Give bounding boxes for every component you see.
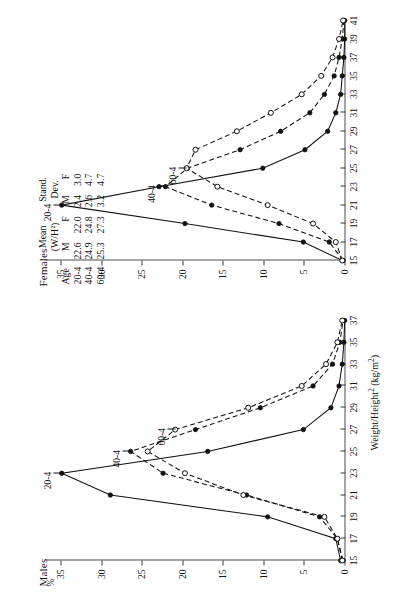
data-point-marker xyxy=(268,110,273,115)
curve-label-stem xyxy=(167,428,175,429)
data-point-marker xyxy=(182,221,186,225)
x-tick-label: 33 xyxy=(348,359,358,369)
data-point-marker xyxy=(333,239,338,244)
stats-cell-sd-f: 3.0 xyxy=(71,164,83,185)
stats-cell-mean-f: 24.8 xyxy=(82,207,94,233)
data-point-marker xyxy=(307,110,311,114)
x-tick-label: 41 xyxy=(348,15,358,25)
y-tick-label: 5 xyxy=(298,269,308,274)
y-tick-label: 25 xyxy=(136,269,146,279)
figure-plate: Males 05101520253035 1517192123252729313… xyxy=(0,0,409,614)
data-point-marker xyxy=(322,92,326,96)
x-tick-label: 19 xyxy=(348,218,358,228)
stats-group-sd: Stand. Dev. xyxy=(36,164,59,207)
data-point-marker xyxy=(328,405,332,409)
y-tick-label: 35 xyxy=(55,569,65,579)
data-point-marker xyxy=(336,383,340,387)
data-point-marker xyxy=(321,514,326,519)
data-point-marker xyxy=(265,514,269,518)
curve-label-60-4: 60-4 xyxy=(156,428,166,445)
data-point-marker xyxy=(334,339,339,344)
stats-group-sd-line2: Dev. xyxy=(48,171,60,207)
data-point-marker xyxy=(310,221,315,226)
data-point-marker xyxy=(338,92,342,96)
x-tick-label: 29 xyxy=(348,126,358,136)
stats-table-column-header-row: Age M F M F xyxy=(59,164,71,284)
y-tick-label: 15 xyxy=(217,569,227,579)
stats-table-body: 20-422.622.02.43.040-424.924.82.64.760-4… xyxy=(71,164,106,284)
plot-area-males: 05101520253035 151719212325272931333537 … xyxy=(45,320,345,560)
data-point-marker xyxy=(336,55,340,59)
x-tick-label: 21 xyxy=(348,200,358,210)
data-point-marker xyxy=(245,405,250,410)
stats-col-sd-f: F xyxy=(59,164,71,185)
data-point-marker xyxy=(323,361,328,366)
stats-cell-mean-m: 22.6 xyxy=(71,233,83,259)
y-tick: 5 xyxy=(303,560,304,565)
data-point-marker xyxy=(145,448,150,453)
data-point-marker xyxy=(318,73,323,78)
y-tick-label: 15 xyxy=(217,269,227,279)
curve-60-4 xyxy=(147,320,342,560)
stats-cell-mean-m: 25.3 xyxy=(94,233,106,259)
x-tick-label: 23 xyxy=(348,181,358,191)
data-point-marker xyxy=(276,221,280,225)
stats-cell-age: 40-4 xyxy=(82,259,94,284)
y-tick: 20 xyxy=(182,560,183,565)
x-tick-label: 25 xyxy=(348,446,358,456)
x-tick-label: 17 xyxy=(348,533,358,543)
x-tick-label: 15 xyxy=(348,255,358,265)
data-point-marker xyxy=(193,147,198,152)
x-tick-label: 31 xyxy=(348,381,358,391)
x-tick-label: 37 xyxy=(348,315,358,325)
stats-table-row: 20-422.622.02.43.0 xyxy=(71,164,83,284)
y-tick: 5 xyxy=(303,260,304,265)
data-point-marker xyxy=(258,405,262,409)
curve-label-40-4: 40-4 xyxy=(111,450,121,467)
stats-col-age: Age xyxy=(59,259,71,284)
data-point-marker xyxy=(339,258,344,263)
data-point-marker xyxy=(299,383,304,388)
y-tick-label: 25 xyxy=(136,569,146,579)
y-tick-label: 0 xyxy=(339,569,349,574)
y-tick-label: 5 xyxy=(298,569,308,574)
data-point-marker xyxy=(278,129,282,133)
x-tick-label: 17 xyxy=(348,237,358,247)
curve-20-4 xyxy=(61,320,344,560)
data-point-marker xyxy=(333,110,337,114)
y-tick: 35 xyxy=(60,560,61,565)
stats-group-mean-line1: Mean xyxy=(36,214,48,259)
data-point-marker xyxy=(214,184,219,189)
x-tick-label: 15 xyxy=(348,555,358,565)
x-axis-title-males: Weight/Height2 (kg/m2) xyxy=(367,354,379,450)
data-point-marker xyxy=(302,147,306,151)
data-point-marker xyxy=(193,427,197,431)
data-point-marker xyxy=(330,361,334,365)
data-point-marker xyxy=(265,202,270,207)
y-tick-label: 20 xyxy=(177,569,187,579)
data-point-marker xyxy=(339,318,344,323)
curve-label-stem xyxy=(178,167,186,168)
y-tick-label: 0 xyxy=(339,269,349,274)
y-tick: 15 xyxy=(222,260,223,265)
y-tick: 15 xyxy=(222,560,223,565)
stats-group-mean: Mean (W/H²) xyxy=(36,207,59,259)
stats-cell-sd-f: 4.7 xyxy=(82,164,94,185)
stats-cell-sd-m: 2.6 xyxy=(82,185,94,206)
curve-label-stem xyxy=(53,472,61,473)
x-tick-label: 35 xyxy=(348,71,358,81)
data-point-marker xyxy=(327,239,331,243)
curve-label-20-4: 20-4 xyxy=(42,471,52,488)
y-tick-label: 10 xyxy=(258,569,268,579)
data-point-marker xyxy=(341,55,345,59)
stats-cell-age: 20-4 xyxy=(71,259,83,284)
data-point-marker xyxy=(336,36,341,41)
stats-table: Mean (W/H²) Stand. Dev. Age M F M F xyxy=(36,164,105,284)
data-point-marker xyxy=(160,471,164,475)
data-point-marker xyxy=(108,492,112,496)
stats-cell-sd-m: 2.4 xyxy=(71,185,83,206)
curve-60-4 xyxy=(186,20,342,260)
stats-col-mean-f: F xyxy=(59,207,71,233)
stats-table-row: 40-424.924.82.64.7 xyxy=(82,164,94,284)
stats-cell-mean-m: 24.9 xyxy=(82,233,94,259)
